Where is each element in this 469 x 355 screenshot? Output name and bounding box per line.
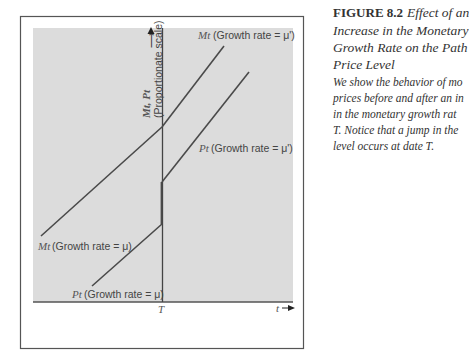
- caption-body-line: We show the behavior of mo: [333, 74, 463, 90]
- label-text: (Growth rate = μ): [84, 288, 164, 300]
- label-p-after: Pt (Growth rate = μ'): [198, 142, 293, 154]
- x-tick-t: T: [158, 303, 165, 315]
- figure-number: FIGURE 8.2: [333, 5, 403, 20]
- caption-body: We show the behavior of mo prices before…: [333, 74, 463, 154]
- label-var: Pt: [198, 142, 210, 154]
- caption-body-line: T. Notice that a jump in the: [333, 122, 463, 138]
- caption-title-line: Growth Rate on the Path: [333, 39, 463, 56]
- caption-body-line: level occurs at date T.: [333, 138, 463, 154]
- label-text: (Growth rate = μ'): [211, 142, 293, 154]
- caption-title-line: Increase in the Monetary: [333, 22, 463, 39]
- caption-title: FIGURE 8.2 Effect of an Increase in the …: [333, 4, 463, 73]
- figure-caption: FIGURE 8.2 Effect of an Increase in the …: [333, 4, 463, 154]
- label-var: Mt: [37, 240, 51, 252]
- caption-body-line: prices before and after an in: [333, 90, 463, 106]
- label-var: Mt: [197, 29, 211, 41]
- caption-body-line: in the monetary growth rat: [333, 106, 463, 122]
- label-m-before: Mt (Growth rate = μ): [37, 240, 132, 252]
- y-axis-main-label: Mt, Pt: [140, 89, 152, 119]
- x-arrowhead-icon: [288, 305, 295, 311]
- caption-title-line: Effect of an: [407, 5, 469, 20]
- label-text: (Growth rate = μ): [52, 240, 132, 252]
- label-var: Pt: [71, 288, 83, 300]
- y-axis-arrow-icon: ⟶: [145, 32, 157, 48]
- x-axis-label: t: [276, 302, 280, 314]
- label-text: (Growth rate = μ'): [213, 29, 295, 41]
- caption-title-line: Price Level: [333, 56, 463, 73]
- label-p-before: Pt (Growth rate = μ): [71, 288, 164, 300]
